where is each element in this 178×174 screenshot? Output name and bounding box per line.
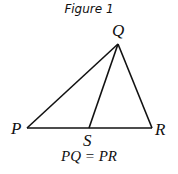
vertex-label-p: P — [11, 120, 21, 137]
figure-caption: PQ = PR — [0, 148, 178, 165]
vertex-label-q: Q — [112, 22, 124, 39]
segment-pq — [27, 44, 118, 128]
vertex-label-r: R — [155, 121, 165, 138]
figure-canvas: Figure 1 Q P S R PQ = PR — [0, 0, 178, 174]
segment-qr — [118, 44, 152, 128]
vertex-label-s: S — [83, 132, 92, 149]
